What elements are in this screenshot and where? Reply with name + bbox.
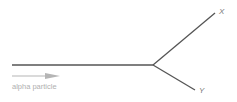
branch-x-track (153, 13, 215, 65)
alpha-particle-caption: alpha particle (12, 82, 57, 91)
label-y: Y (199, 86, 204, 95)
label-x: X (219, 7, 224, 16)
direction-arrow-icon (12, 73, 60, 79)
branch-y-track (153, 65, 195, 90)
